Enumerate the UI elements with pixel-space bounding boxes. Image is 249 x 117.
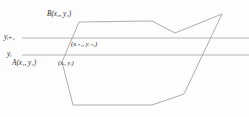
polygon-outline <box>62 14 222 105</box>
scanline-lower-label: yᵢ <box>7 51 11 58</box>
vertex-a-label: A(x₁, y₁) <box>12 60 36 67</box>
intersection-lower-label: (xᵢ, yᵢ) <box>58 60 74 67</box>
scanline-upper-label: yᵢ₊₁ <box>4 34 15 41</box>
intersection-upper-label: (xᵢ₊₁, yᵢ₊₁) <box>71 41 97 48</box>
figure-canvas: B(x₂, y₂) yᵢ₊₁ yᵢ A(x₁, y₁) (xᵢ₊₁, yᵢ₊₁)… <box>0 0 249 117</box>
polygon-diagram <box>0 0 249 117</box>
vertex-b-label: B(x₂, y₂) <box>47 11 71 18</box>
